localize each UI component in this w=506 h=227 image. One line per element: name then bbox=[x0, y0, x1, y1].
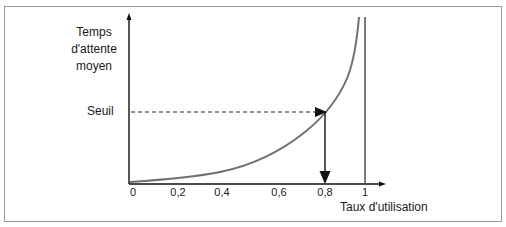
x-tick-0-2: 0,2 bbox=[170, 186, 185, 198]
threshold-label: Seuil bbox=[87, 104, 114, 118]
y-axis-label: Temps d'attente moyen bbox=[60, 24, 128, 75]
y-axis-label-line-2: d'attente bbox=[60, 41, 128, 58]
x-tick-0-8: 0,8 bbox=[317, 186, 332, 198]
x-axis-label: Taux d'utilisation bbox=[340, 200, 428, 214]
x-tick-0-6: 0,6 bbox=[271, 186, 286, 198]
x-tick-1: 1 bbox=[362, 186, 368, 198]
x-tick-0-4: 0,4 bbox=[214, 186, 229, 198]
x-tick-0: 0 bbox=[130, 186, 136, 198]
y-axis-label-line-3: moyen bbox=[60, 58, 128, 75]
y-axis-label-line-1: Temps bbox=[60, 24, 128, 41]
y-axis-arrow-icon bbox=[127, 13, 132, 20]
down-arrow-icon bbox=[320, 171, 331, 184]
x-axis-arrow-icon bbox=[379, 182, 386, 187]
